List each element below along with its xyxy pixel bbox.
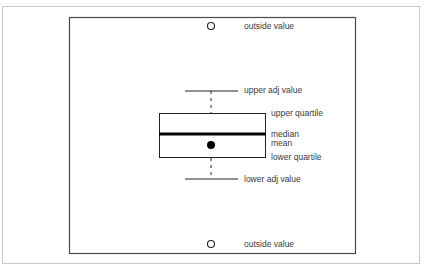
lower-quartile-label: lower quartile bbox=[271, 152, 322, 162]
upper-adj-label: upper adj value bbox=[244, 85, 302, 95]
outside-value-top-label: outside value bbox=[244, 21, 294, 31]
outside-value-bottom-label: outside value bbox=[244, 239, 294, 249]
outside-value-bottom-marker bbox=[208, 241, 215, 248]
lower-adj-label: lower adj value bbox=[244, 174, 301, 184]
boxplot-diagram: outside value upper adj value upper quar… bbox=[0, 0, 428, 271]
mean-label: mean bbox=[271, 138, 293, 148]
upper-quartile-label: upper quartile bbox=[271, 108, 323, 118]
mean-marker bbox=[207, 141, 215, 149]
outside-value-top-marker bbox=[208, 23, 215, 30]
